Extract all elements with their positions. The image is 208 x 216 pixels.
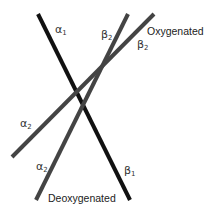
label-oxygenated: Oxygenated xyxy=(147,26,204,37)
label-beta2-deoxygenated: β2 xyxy=(101,29,113,42)
label-deoxygenated: Deoxygenated xyxy=(48,193,116,204)
label-alpha2-deoxygenated: α2 xyxy=(36,161,48,174)
label-alpha1: α1 xyxy=(55,24,67,37)
label-beta1: β1 xyxy=(124,165,136,178)
alpha2-beta2-oxygenated-line xyxy=(12,14,154,157)
label-beta2-oxygenated: β2 xyxy=(137,39,149,52)
label-alpha2-oxygenated: α2 xyxy=(20,118,32,131)
